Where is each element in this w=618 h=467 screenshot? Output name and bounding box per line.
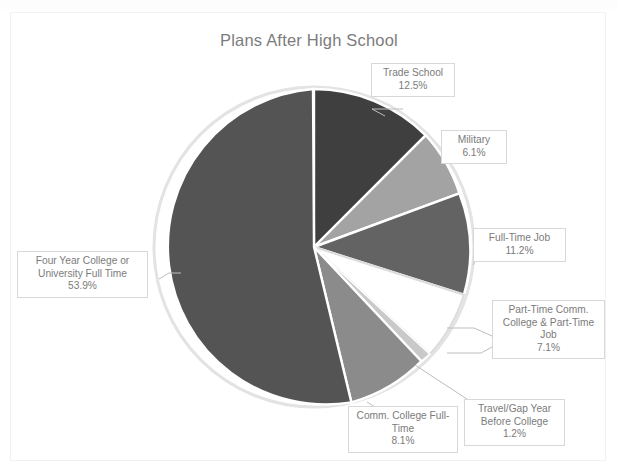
- callout-comm-full-line2: Time: [354, 423, 452, 436]
- callout-part-time-line1: Part-Time Comm.: [509, 304, 589, 315]
- callout-trade-school-percent: 12.5%: [377, 80, 449, 93]
- callout-travel-gap-year[interactable]: Travel/Gap Year Before College 1.2%: [464, 399, 565, 446]
- callout-travel-percent: 1.2%: [470, 428, 559, 441]
- callout-part-time-percent: 7.1%: [498, 342, 599, 355]
- leader-line-part-time: [447, 328, 492, 336]
- callout-part-time-line2: College & Part-Time: [498, 317, 599, 330]
- callout-full-time-job[interactable]: Full-Time Job 11.2%: [473, 228, 566, 262]
- callout-military-percent: 6.1%: [447, 147, 501, 160]
- callout-part-time-comm-college[interactable]: Part-Time Comm. College & Part-Time Job …: [492, 300, 605, 359]
- callout-four-year-line1: Four Year College or: [36, 255, 129, 266]
- callout-comm-college-full-time[interactable]: Comm. College Full- Time 8.1%: [348, 406, 458, 453]
- leader-line-part-time-b: [447, 347, 492, 353]
- callout-travel-line2: Before College: [470, 416, 559, 429]
- callout-travel-line1: Travel/Gap Year: [478, 403, 551, 414]
- callout-four-year-percent: 53.9%: [23, 280, 142, 293]
- callout-part-time-line3: Job: [498, 329, 599, 342]
- callout-military[interactable]: Military 6.1%: [441, 130, 507, 164]
- callout-trade-school[interactable]: Trade School 12.5%: [371, 63, 455, 97]
- callout-full-time-job-line1: Full-Time Job: [489, 232, 550, 243]
- callout-comm-full-percent: 8.1%: [354, 435, 452, 448]
- callout-comm-full-line1: Comm. College Full-: [357, 410, 450, 421]
- callout-four-year-line2: University Full Time: [23, 268, 142, 281]
- callout-military-line1: Military: [458, 134, 490, 145]
- clipped-top-row: [0, 0, 618, 9]
- callout-four-year-college[interactable]: Four Year College or University Full Tim…: [17, 251, 148, 298]
- callout-trade-school-line1: Trade School: [383, 67, 443, 78]
- callout-full-time-job-percent: 11.2%: [479, 245, 560, 258]
